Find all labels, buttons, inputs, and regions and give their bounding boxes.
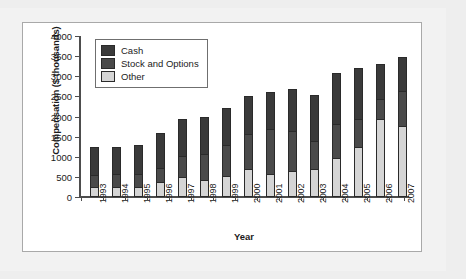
bar-segment-cash xyxy=(90,147,99,175)
bar-segment-cash xyxy=(200,117,209,154)
bar-segment-stock-and-options xyxy=(244,134,253,169)
chart-legend: CashStock and OptionsOther xyxy=(95,39,208,88)
bar-stack xyxy=(244,96,253,197)
bar-segment-cash xyxy=(288,89,297,131)
bar-segment-cash xyxy=(178,119,187,156)
bar-stack xyxy=(398,57,407,197)
y-axis-tick-label: 1500 xyxy=(51,131,72,142)
legend-swatch-icon xyxy=(101,58,115,69)
y-axis-tick xyxy=(75,157,80,158)
x-axis-tick xyxy=(103,197,104,201)
figure-root: Compensation ($ thousands) 0500100015002… xyxy=(0,0,466,279)
y-axis-tick xyxy=(75,137,80,138)
x-axis-tick xyxy=(169,197,170,201)
y-axis-tick-label: 4000 xyxy=(51,31,72,42)
bar-stack xyxy=(354,68,363,197)
x-axis-tick xyxy=(81,197,82,201)
x-axis-tick xyxy=(257,197,258,201)
bar-segment-stock-and-options xyxy=(200,154,209,180)
bar-stack xyxy=(376,64,385,197)
legend-item[interactable]: Cash xyxy=(101,44,199,57)
legend-item[interactable]: Other xyxy=(101,70,199,83)
y-axis-tick xyxy=(75,56,80,57)
bar-stack xyxy=(332,73,341,197)
y-axis-tick xyxy=(75,96,80,97)
x-axis-tick xyxy=(367,197,368,201)
x-axis-tick xyxy=(213,197,214,201)
x-axis-tick xyxy=(279,197,280,201)
bar-segment-cash xyxy=(112,147,121,174)
x-axis-tick xyxy=(147,197,148,201)
bar-segment-stock-and-options xyxy=(222,145,231,176)
y-axis-tick xyxy=(75,197,80,198)
bar-segment-cash xyxy=(310,95,319,141)
x-axis-tick xyxy=(191,197,192,201)
bar-segment-stock-and-options xyxy=(376,99,385,118)
bar-segment-cash xyxy=(266,92,275,129)
legend-item-label: Other xyxy=(121,71,145,82)
y-axis-tick-label: 0 xyxy=(67,192,72,203)
y-axis-tick-label: 1000 xyxy=(51,151,72,162)
bar-segment-cash xyxy=(156,133,165,168)
y-axis-tick xyxy=(75,36,80,37)
bar-stack xyxy=(310,95,319,197)
bar-segment-cash xyxy=(398,57,407,92)
bar-segment-stock-and-options xyxy=(288,131,297,171)
bar-segment-cash xyxy=(332,73,341,124)
legend-item-label: Cash xyxy=(121,45,143,56)
legend-item[interactable]: Stock and Options xyxy=(101,57,199,70)
bar-segment-cash xyxy=(134,145,143,174)
x-axis-tick xyxy=(235,197,236,201)
x-axis-tick xyxy=(125,197,126,201)
x-axis-tick xyxy=(301,197,302,201)
stacked-bar-chart-panel: Compensation ($ thousands) 0500100015002… xyxy=(22,22,422,252)
bar-segment-stock-and-options xyxy=(332,124,341,159)
x-axis-tick xyxy=(404,197,405,201)
bar-segment-stock-and-options xyxy=(398,91,407,126)
bar-segment-stock-and-options xyxy=(178,156,187,177)
x-axis-tick xyxy=(389,197,390,201)
bar-segment-stock-and-options xyxy=(266,129,275,174)
bar-stack xyxy=(266,92,275,197)
bar-segment-stock-and-options xyxy=(156,168,165,182)
x-axis-tick-label: 2007 xyxy=(406,184,416,203)
bar-segment-cash xyxy=(244,96,253,134)
legend-swatch-icon xyxy=(101,45,115,56)
y-axis-tick-label: 3000 xyxy=(51,71,72,82)
x-axis-tick xyxy=(345,197,346,201)
y-axis-tick-label: 2500 xyxy=(51,91,72,102)
legend-item-label: Stock and Options xyxy=(121,58,199,69)
legend-swatch-icon xyxy=(101,71,115,82)
bar-segment-cash xyxy=(376,64,385,99)
x-axis-tick xyxy=(323,197,324,201)
y-axis-tick xyxy=(75,117,80,118)
y-axis-tick xyxy=(75,76,80,77)
bar-segment-stock-and-options xyxy=(310,141,319,170)
y-axis-tick-label: 3500 xyxy=(51,51,72,62)
bar-stack xyxy=(288,89,297,197)
bar-segment-cash xyxy=(354,68,363,120)
y-axis-tick xyxy=(75,177,80,178)
x-axis-title: Year xyxy=(79,231,409,242)
y-axis-tick-label: 500 xyxy=(56,171,72,182)
bar-segment-cash xyxy=(222,108,231,145)
y-axis-tick-label: 2000 xyxy=(51,111,72,122)
bar-segment-stock-and-options xyxy=(354,119,363,147)
